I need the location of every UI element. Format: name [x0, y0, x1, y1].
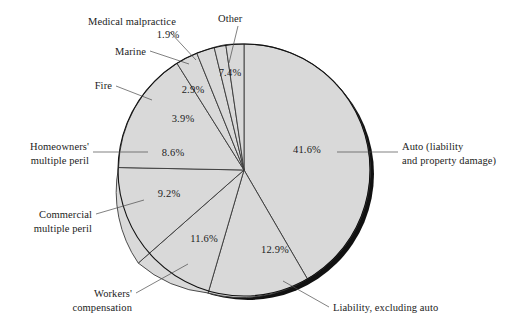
value-label-workers-compensation: 11.6%	[190, 233, 218, 244]
category-label-workers-compensation-line1: Workers'	[94, 288, 132, 299]
value-label-liability-excluding-auto: 12.9%	[261, 244, 289, 255]
category-label-liability-excluding-auto: Liability, excluding auto	[333, 302, 438, 313]
category-label-medical-malpractice: Medical malpractice	[88, 16, 176, 27]
category-label-homeowners-multiple-peril-line2: multiple peril	[31, 155, 89, 166]
category-label-commercial-multiple-peril-line1: Commercial	[39, 209, 92, 220]
value-label-commercial-multiple-peril: 9.2%	[158, 188, 181, 199]
value-label-auto: 41.6%	[293, 144, 321, 155]
category-label-fire: Fire	[95, 80, 113, 91]
pie-chart-figure: 41.6% 12.9% 11.6% 9.2% 8.6% 3.9% 2.9% 1.…	[0, 0, 527, 332]
category-label-auto-line1: Auto (liability	[402, 141, 464, 153]
category-label-workers-compensation-line2: compensation	[72, 302, 132, 313]
category-label-homeowners-multiple-peril-line1: Homeowners'	[30, 141, 89, 152]
category-label-marine: Marine	[115, 46, 146, 57]
pie-chart-canvas: 41.6% 12.9% 11.6% 9.2% 8.6% 3.9% 2.9% 1.…	[0, 0, 527, 332]
value-label-homeowners-multiple-peril: 8.6%	[162, 147, 185, 158]
value-label-other: 7.4%	[219, 67, 242, 78]
category-label-auto-line2: and property damage)	[402, 155, 497, 167]
value-label-medical-malpractice: 1.9%	[157, 29, 180, 40]
category-label-commercial-multiple-peril-line2: multiple peril	[34, 223, 92, 234]
value-label-marine: 2.9%	[182, 84, 205, 95]
leader-line-marine	[150, 51, 189, 64]
value-label-fire: 3.9%	[172, 113, 195, 124]
category-label-other: Other	[218, 13, 243, 24]
